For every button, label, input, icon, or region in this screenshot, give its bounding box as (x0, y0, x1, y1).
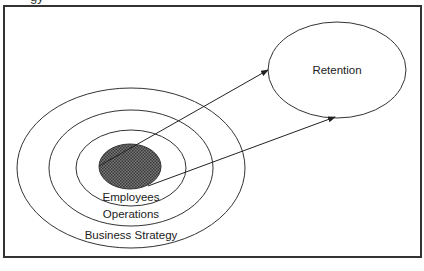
core-shaded-ellipse (99, 144, 161, 189)
label-retention: Retention (312, 64, 361, 76)
label-business-strategy: Business Strategy (85, 229, 178, 241)
label-operations: Operations (103, 208, 160, 220)
diagram-canvas: Retention Employees Operations Business … (0, 0, 424, 271)
arrow-core-to-retention-lower (148, 117, 335, 186)
label-employees: Employees (103, 191, 160, 203)
